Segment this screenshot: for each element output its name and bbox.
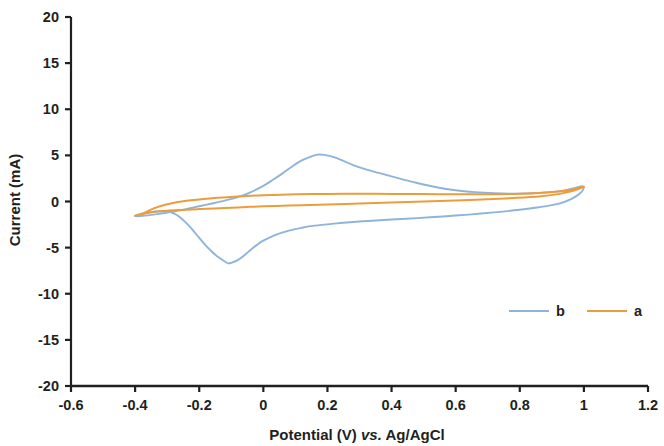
y-tick-label: 15 bbox=[43, 55, 59, 71]
x-axis-title-pre: Potential (V) bbox=[269, 426, 361, 443]
chart-canvas: 20151050-5-10-15-20 -0.6-0.4-0.200.20.40… bbox=[0, 0, 664, 446]
legend-label-b: b bbox=[556, 303, 565, 319]
x-tick-label: 0.8 bbox=[510, 397, 530, 413]
x-tick-label: 1 bbox=[580, 397, 588, 413]
series-layer bbox=[135, 155, 584, 264]
x-tick-label: 0 bbox=[259, 397, 267, 413]
x-tick-label: 0.4 bbox=[381, 397, 401, 413]
x-axis: -0.6-0.4-0.200.20.40.60.811.2 bbox=[59, 386, 659, 413]
x-tick-label: -0.4 bbox=[123, 397, 148, 413]
x-tick-label: -0.6 bbox=[59, 397, 84, 413]
y-tick-label: 5 bbox=[51, 147, 59, 163]
x-tick-label: 0.2 bbox=[317, 397, 337, 413]
x-tick-label: -0.2 bbox=[187, 397, 212, 413]
series-curve-a bbox=[135, 187, 584, 216]
y-axis-title: Current (mA) bbox=[6, 154, 23, 247]
x-axis-title-vs: vs. bbox=[361, 426, 382, 443]
y-tick-label: -10 bbox=[38, 286, 59, 302]
y-tick-label: -5 bbox=[46, 240, 59, 256]
x-axis-title: Potential (V) vs. Ag/AgCl bbox=[269, 426, 444, 443]
legend-label-a: a bbox=[634, 303, 643, 319]
cv-chart: 20151050-5-10-15-20 -0.6-0.4-0.200.20.40… bbox=[0, 0, 664, 446]
chart-legend: ba bbox=[509, 303, 643, 319]
y-tick-label: -15 bbox=[38, 332, 59, 348]
y-tick-label: -20 bbox=[38, 378, 59, 394]
x-axis-title-post: Ag/AgCl bbox=[382, 426, 445, 443]
x-tick-label: 0.6 bbox=[446, 397, 466, 413]
x-tick-label: 1.2 bbox=[638, 397, 658, 413]
y-tick-label: 10 bbox=[43, 101, 59, 117]
y-axis: 20151050-5-10-15-20 bbox=[38, 9, 71, 394]
y-tick-label: 0 bbox=[51, 194, 59, 210]
y-tick-label: 20 bbox=[43, 9, 59, 25]
